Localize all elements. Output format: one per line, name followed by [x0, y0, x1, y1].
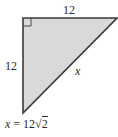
left-side-label: 12	[5, 59, 17, 73]
solution-caption: x = 12√2	[5, 117, 48, 132]
radical-sign: √	[35, 117, 42, 131]
right-triangle	[23, 18, 117, 113]
hypotenuse-label: x	[74, 64, 81, 78]
top-side-label: 12	[63, 3, 75, 17]
caption-radicand: 2	[42, 116, 48, 131]
caption-equals: = 12	[10, 117, 35, 131]
